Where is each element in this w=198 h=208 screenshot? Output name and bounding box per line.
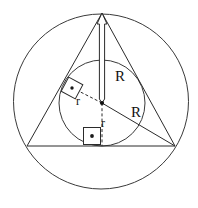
label-inradius-left: r <box>76 94 80 108</box>
right-angle-mark-bottom <box>84 128 101 145</box>
right-angle-dot-left <box>70 86 73 89</box>
right-angle-dot-bottom <box>90 134 94 138</box>
center-point <box>100 101 104 105</box>
label-circumradius-right: R <box>131 104 141 120</box>
label-circumradius-top: R <box>115 68 125 84</box>
diagram-canvas: R R r r <box>0 0 198 208</box>
geometry-diagram: R R r r <box>0 0 198 208</box>
label-inradius-bottom: r <box>101 116 105 130</box>
circumradius-segment-top <box>97 13 107 103</box>
